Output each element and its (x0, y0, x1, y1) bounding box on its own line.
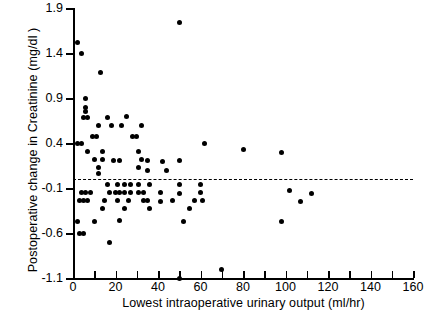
data-point (85, 198, 90, 203)
x-tick-13 (349, 271, 351, 278)
data-point (177, 276, 182, 281)
data-point (202, 141, 207, 146)
data-point (109, 123, 114, 128)
x-tick-label-8: 80 (223, 281, 263, 293)
data-point (96, 171, 101, 176)
data-point (136, 149, 141, 154)
data-point (98, 70, 103, 75)
data-point (219, 267, 224, 272)
x-tick-label-2: 20 (96, 281, 136, 293)
data-point (117, 158, 122, 163)
y-tick-5 (66, 233, 73, 235)
x-axis-label: Lowest intraoperative urinary output (ml… (73, 296, 414, 310)
x-tick-11 (307, 271, 309, 278)
data-point (100, 149, 105, 154)
data-point (141, 190, 146, 195)
data-point (128, 190, 133, 195)
data-point (115, 198, 120, 203)
data-point (309, 191, 314, 196)
y-tick-3 (66, 143, 73, 145)
data-point (105, 182, 110, 187)
data-point (200, 198, 205, 203)
data-point (279, 150, 284, 155)
x-tick-12 (328, 271, 330, 278)
data-point (107, 240, 112, 245)
data-point (94, 134, 99, 139)
data-point (92, 219, 97, 224)
data-point (122, 206, 127, 211)
x-tick-1 (94, 271, 96, 278)
data-point (88, 190, 93, 195)
x-tick-label-14: 140 (351, 281, 391, 293)
data-point (177, 191, 182, 196)
x-tick-label-6: 60 (181, 281, 221, 293)
data-point (100, 206, 105, 211)
data-point (192, 198, 197, 203)
y-tick-label-1: 1.4 (20, 47, 63, 59)
y-tick-2 (66, 98, 73, 100)
x-tick-16 (413, 271, 415, 278)
data-point (279, 219, 284, 224)
x-tick-6 (201, 271, 203, 278)
data-point (75, 40, 80, 45)
data-point (126, 198, 131, 203)
y-tick-label-5: -0.6 (20, 227, 63, 239)
data-point (100, 157, 105, 162)
y-tick-label-0: 1.9 (20, 2, 63, 14)
data-point (117, 218, 122, 223)
x-tick-8 (243, 271, 245, 278)
data-point (111, 158, 116, 163)
data-point (298, 199, 303, 204)
x-tick-4 (158, 271, 160, 278)
data-point (115, 182, 120, 187)
data-point (145, 198, 150, 203)
data-point (158, 199, 163, 204)
data-point (75, 219, 80, 224)
data-point (147, 206, 152, 211)
data-point (139, 123, 144, 128)
x-tick-label-4: 40 (138, 281, 178, 293)
y-tick-label-4: -0.1 (20, 182, 63, 194)
data-point (81, 231, 86, 236)
data-point (105, 115, 110, 120)
data-point (170, 198, 175, 203)
x-tick-label-12: 120 (308, 281, 348, 293)
data-point (158, 190, 163, 195)
y-tick-4 (66, 188, 73, 190)
y-tick-label-2: 0.9 (20, 92, 63, 104)
data-point (79, 141, 84, 146)
data-point (241, 147, 246, 152)
data-point (136, 165, 141, 170)
data-point (92, 157, 97, 162)
data-point (107, 190, 112, 195)
data-point (83, 96, 88, 101)
data-point (160, 159, 165, 164)
data-point (96, 123, 101, 128)
x-tick-14 (371, 271, 373, 278)
data-point (177, 20, 182, 25)
x-tick-label-0: 0 (53, 281, 93, 293)
data-point (102, 198, 107, 203)
data-point (85, 149, 90, 154)
data-point (83, 109, 88, 114)
data-point (124, 114, 129, 119)
data-point (136, 182, 141, 187)
data-point (85, 115, 90, 120)
x-tick-label-16: 160 (393, 281, 433, 293)
data-point (134, 134, 139, 139)
x-tick-7 (222, 271, 224, 278)
data-point (122, 182, 127, 187)
x-tick-15 (392, 271, 394, 278)
x-tick-3 (137, 271, 139, 278)
data-point (145, 158, 150, 163)
data-point (128, 182, 133, 187)
x-tick-label-10: 100 (266, 281, 306, 293)
y-tick-0 (66, 8, 73, 10)
data-point (177, 182, 182, 187)
y-tick-1 (66, 53, 73, 55)
x-tick-2 (116, 271, 118, 278)
data-point (139, 157, 144, 162)
y-axis-label: Postoperative change in Creatinine (mg/d… (22, 0, 44, 300)
reference-line (73, 179, 413, 180)
x-tick-10 (286, 271, 288, 278)
